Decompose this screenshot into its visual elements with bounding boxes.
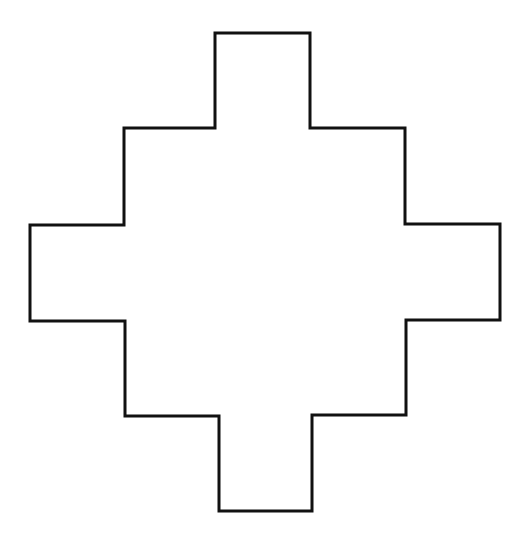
stepped-cross-figure xyxy=(0,0,527,543)
background xyxy=(0,0,527,543)
